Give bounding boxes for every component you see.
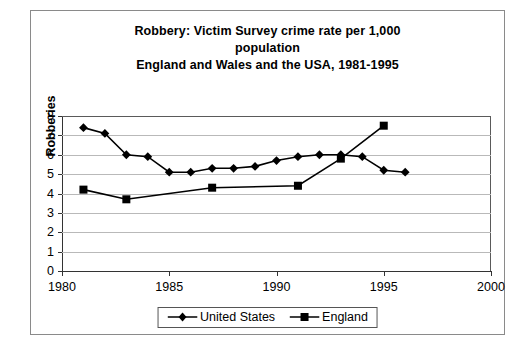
legend-label-united-states: United States (200, 310, 275, 324)
x-tick-mark-1990 (277, 271, 278, 276)
x-tick-label-1980: 1980 (48, 280, 76, 294)
data-point-marker (358, 152, 367, 161)
data-point-marker (380, 122, 388, 130)
y-tick-label-8: 8 (47, 109, 54, 123)
chart-title: Robbery: Victim Survey crime rate per 1,… (31, 23, 504, 74)
chart-container: Robbery: Victim Survey crime rate per 1,… (30, 10, 505, 335)
chart-title-line-1: Robbery: Victim Survey crime rate per 1,… (31, 23, 504, 40)
data-point-marker (79, 186, 87, 194)
data-point-marker (229, 164, 238, 173)
x-tick-mark-1980 (62, 271, 63, 276)
chart-title-line-3: England and Wales and the USA, 1981-1995 (31, 57, 504, 74)
y-tick-label-2: 2 (47, 225, 54, 239)
data-point-marker (401, 168, 410, 177)
y-tick-label-1: 1 (47, 245, 54, 259)
x-tick-mark-1995 (384, 271, 385, 276)
legend-marker-square-icon (289, 311, 319, 323)
data-point-marker (337, 155, 345, 163)
data-point-marker (251, 162, 260, 171)
y-tick-label-5: 5 (47, 167, 54, 181)
data-point-marker (294, 182, 302, 190)
x-tick-label-2000: 2000 (477, 280, 505, 294)
y-tick-label-7: 7 (47, 128, 54, 142)
x-tick-label-1985: 1985 (155, 280, 183, 294)
legend-label-england: England (322, 310, 368, 324)
data-point-marker (379, 166, 388, 175)
data-point-marker (208, 164, 217, 173)
series-england (79, 122, 387, 204)
data-point-marker (186, 168, 195, 177)
x-tick-mark-2000 (491, 271, 492, 276)
series-line (83, 128, 405, 173)
data-point-marker (294, 152, 303, 161)
y-tick-label-6: 6 (47, 148, 54, 162)
data-point-marker (79, 123, 88, 132)
legend-item-united-states[interactable]: United States (167, 310, 275, 324)
y-tick-label-0: 0 (47, 264, 54, 278)
y-tick-label-3: 3 (47, 206, 54, 220)
x-axis-line: 19801985199019952000 (62, 271, 491, 272)
x-tick-label-1995: 1995 (370, 280, 398, 294)
data-point-marker (122, 195, 130, 203)
series-united-states (79, 123, 410, 176)
chart-legend: United States England (157, 307, 378, 328)
x-tick-mark-1985 (169, 271, 170, 276)
data-point-marker (315, 150, 324, 159)
data-point-marker (272, 156, 281, 165)
legend-item-england[interactable]: England (289, 310, 368, 324)
data-series-layer (62, 116, 491, 271)
legend-marker-diamond-icon (167, 311, 197, 323)
data-point-marker (208, 184, 216, 192)
x-tick-label-1990: 1990 (263, 280, 291, 294)
chart-title-line-2: population (31, 40, 504, 57)
y-tick-label-4: 4 (47, 187, 54, 201)
